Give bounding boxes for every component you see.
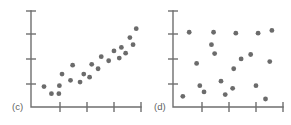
data-point <box>202 89 207 94</box>
data-point <box>56 91 61 96</box>
data-point <box>99 54 104 59</box>
data-point <box>223 92 228 97</box>
data-point <box>248 52 253 57</box>
data-point <box>134 26 139 31</box>
data-point <box>254 83 259 88</box>
data-point <box>70 63 75 68</box>
data-point <box>49 91 54 96</box>
data-point <box>81 72 86 77</box>
data-point <box>123 51 128 56</box>
panel-c-axis-lines <box>31 11 141 107</box>
data-point <box>263 97 268 102</box>
data-point <box>219 79 224 84</box>
data-point <box>211 30 216 35</box>
data-point <box>112 49 117 54</box>
data-point <box>106 58 111 63</box>
data-point <box>60 72 65 77</box>
data-point <box>267 59 272 64</box>
data-point <box>256 31 261 36</box>
scatterplot-figure: (c) (d) <box>0 0 291 125</box>
data-point <box>212 51 217 56</box>
panel-c-plot: (c) <box>0 0 145 125</box>
data-point <box>119 45 124 50</box>
data-point <box>87 75 92 80</box>
panel-c-axes <box>26 11 141 112</box>
data-point <box>89 62 94 67</box>
data-point <box>117 56 122 61</box>
panel-c-data-points <box>42 26 139 96</box>
panel-d-label: (d) <box>154 101 166 112</box>
data-point <box>231 66 236 71</box>
data-point <box>194 61 199 66</box>
data-point <box>180 94 185 99</box>
data-point <box>187 30 192 35</box>
data-point <box>197 83 202 88</box>
data-point <box>78 80 83 85</box>
data-point <box>131 42 136 47</box>
data-point <box>42 84 47 89</box>
panel-c: (c) <box>0 0 145 125</box>
data-point <box>233 31 238 36</box>
data-point <box>57 83 62 88</box>
panel-d-data-points <box>180 28 274 101</box>
data-point <box>230 86 235 91</box>
data-point <box>96 66 101 71</box>
data-point <box>269 28 274 33</box>
panel-d-axis-lines <box>173 11 283 107</box>
data-point <box>239 57 244 62</box>
data-point <box>209 42 214 47</box>
panel-d: (d) <box>145 0 290 125</box>
data-point <box>127 35 132 40</box>
data-point <box>68 78 73 83</box>
panel-c-label: (c) <box>12 101 23 112</box>
panel-d-plot: (d) <box>145 0 290 125</box>
